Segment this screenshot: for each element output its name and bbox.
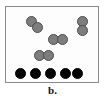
particle-black-4 bbox=[60, 68, 71, 79]
molecules-layer bbox=[6, 7, 98, 82]
particle-black-5 bbox=[72, 68, 83, 79]
molecule-gray-3 bbox=[6, 7, 98, 82]
figure-caption: b. bbox=[0, 84, 105, 97]
particle-box bbox=[5, 6, 99, 83]
molecule-gray-4-atom-1 bbox=[34, 50, 45, 61]
molecule-gray-2-atom-2 bbox=[77, 25, 88, 36]
molecule-gray-2 bbox=[6, 7, 98, 82]
molecule-gray-1 bbox=[6, 7, 98, 82]
molecule-gray-1-atom-1 bbox=[26, 16, 37, 27]
molecule-gray-2-atom-1 bbox=[77, 16, 88, 27]
particle-black-2 bbox=[30, 68, 41, 79]
molecule-gray-4-atom-2 bbox=[43, 50, 54, 61]
molecule-gray-1-atom-2 bbox=[32, 22, 43, 33]
molecule-gray-3-atom-1 bbox=[48, 34, 59, 45]
figure-panel: b. bbox=[0, 0, 105, 100]
particle-black-1 bbox=[15, 68, 26, 79]
molecule-gray-3-atom-2 bbox=[57, 34, 68, 45]
molecule-gray-4 bbox=[6, 7, 98, 82]
particle-black-3 bbox=[45, 68, 56, 79]
